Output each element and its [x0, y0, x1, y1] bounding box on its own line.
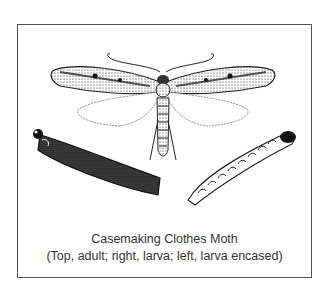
caption-detail: (Top, adult; right, larva; left, larva e… — [17, 248, 312, 265]
adult-moth-icon — [51, 54, 275, 160]
larva-icon — [188, 131, 296, 205]
caption-title: Casemaking Clothes Moth — [17, 231, 312, 248]
larva-encased-icon — [33, 129, 160, 195]
moth-illustration — [0, 0, 330, 230]
